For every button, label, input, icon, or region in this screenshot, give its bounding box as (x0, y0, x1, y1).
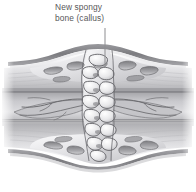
callout-label-line-1: New spongy (55, 2, 135, 13)
right-edge-fade (182, 40, 196, 180)
bone-fracture-illustration (0, 0, 196, 192)
callout-label: New spongy bone (callus) (55, 2, 135, 24)
callout-label-line-2: bone (callus) (55, 13, 135, 24)
left-edge-fade (0, 40, 14, 180)
bone-healing-figure: New spongy bone (callus) (0, 0, 196, 192)
